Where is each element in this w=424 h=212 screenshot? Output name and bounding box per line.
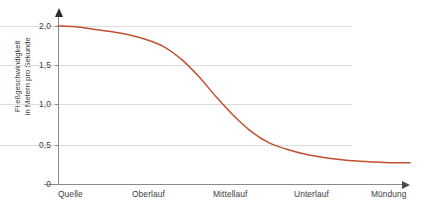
flow-velocity-curve xyxy=(58,26,410,163)
chart-curve-layer xyxy=(0,0,424,212)
flow-velocity-chart: Fließgeschwindigkeit in Metern pro Sekun… xyxy=(0,0,424,212)
